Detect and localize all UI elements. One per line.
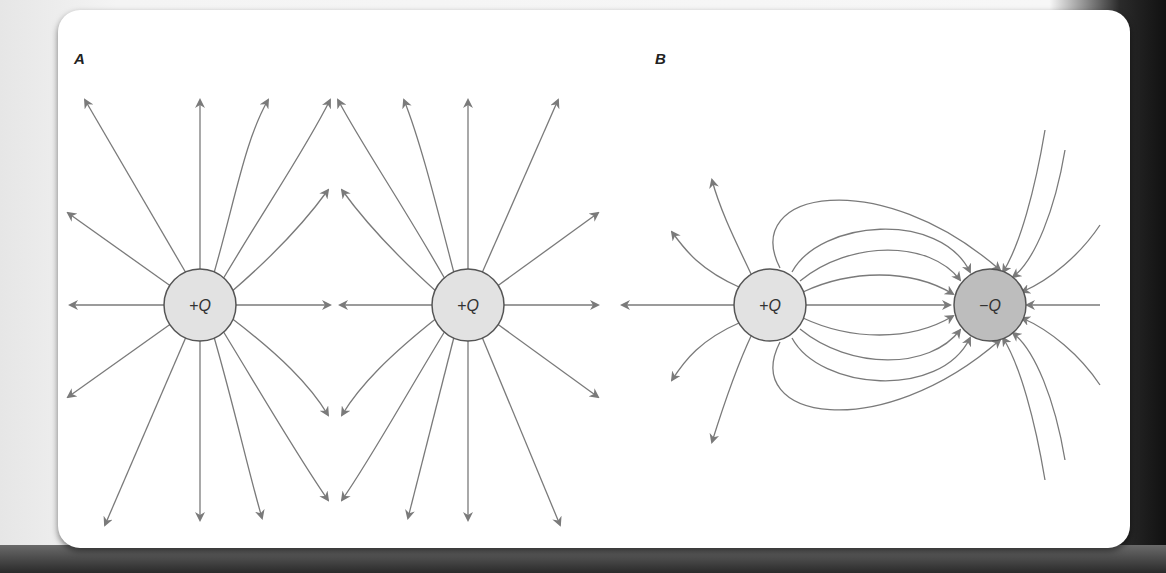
svg-text:+Q: +Q (457, 297, 479, 314)
field-diagram: +Q +Q +Q −Q (0, 0, 1166, 573)
panel-b-positive-field-lines (622, 180, 1000, 442)
svg-text:−Q: −Q (979, 297, 1001, 314)
charge-a-left: +Q (164, 269, 236, 341)
panel-label-a: A (74, 50, 85, 67)
panel-label-b: B (655, 50, 666, 67)
charge-b-positive: +Q (734, 269, 806, 341)
svg-text:+Q: +Q (759, 297, 781, 314)
charge-b-negative: −Q (954, 269, 1026, 341)
svg-text:+Q: +Q (189, 297, 211, 314)
charge-a-right: +Q (432, 269, 504, 341)
